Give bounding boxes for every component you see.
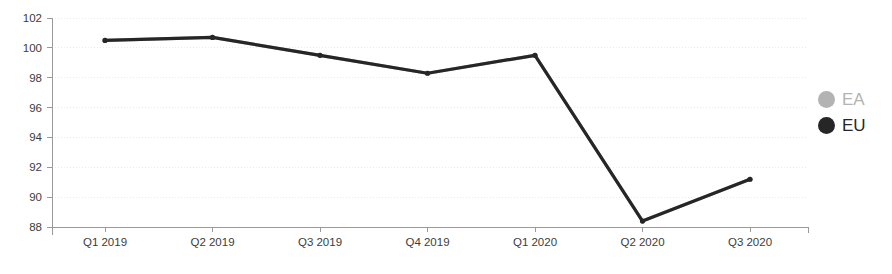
- y-tick-label: 88: [29, 221, 42, 233]
- x-tick-label: Q1 2020: [513, 236, 557, 248]
- line-chart: 889092949698100102 Q1 2019Q2 2019Q3 2019…: [0, 0, 892, 274]
- y-tick-label: 100: [23, 42, 42, 54]
- legend-label-eu: EU: [842, 117, 866, 134]
- x-tick-label: Q3 2020: [728, 236, 772, 248]
- legend-item-ea[interactable]: EA: [818, 86, 892, 112]
- data-series-group: [102, 35, 752, 224]
- data-point-eu-5: [640, 218, 645, 223]
- y-axis-ticks: 889092949698100102: [23, 12, 808, 233]
- data-point-eu-0: [102, 38, 107, 43]
- chart-canvas: 889092949698100102 Q1 2019Q2 2019Q3 2019…: [0, 0, 892, 274]
- series-line-ea: [105, 37, 750, 221]
- series-line-eu: [105, 37, 750, 221]
- x-tick-label: Q1 2019: [83, 236, 127, 248]
- x-tick-label: Q2 2019: [190, 236, 234, 248]
- y-tick-label: 90: [29, 191, 42, 203]
- data-point-eu-2: [317, 53, 322, 58]
- legend-label-ea: EA: [842, 91, 865, 108]
- y-tick-label: 94: [29, 131, 42, 143]
- legend-swatch-ea: [818, 91, 835, 108]
- legend-item-eu[interactable]: EU: [818, 112, 892, 138]
- y-tick-label: 102: [23, 12, 42, 24]
- chart-legend: EA EU: [818, 86, 892, 138]
- y-tick-label: 92: [29, 161, 42, 173]
- x-tick-label: Q2 2020: [620, 236, 664, 248]
- data-point-eu-6: [747, 177, 752, 182]
- y-tick-label: 98: [29, 72, 42, 84]
- x-tick-label: Q4 2019: [405, 236, 449, 248]
- x-tick-label: Q3 2019: [298, 236, 342, 248]
- gridlines: [52, 18, 808, 227]
- y-tick-label: 96: [29, 102, 42, 114]
- x-axis-ticks: Q1 2019Q2 2019Q3 2019Q4 2019Q1 2020Q2 20…: [83, 227, 772, 248]
- legend-swatch-eu: [818, 117, 835, 134]
- data-point-eu-4: [532, 53, 537, 58]
- data-point-eu-1: [210, 35, 215, 40]
- data-point-eu-3: [425, 71, 430, 76]
